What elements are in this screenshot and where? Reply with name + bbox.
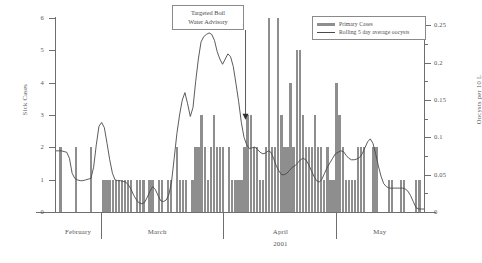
y-axis-right-title: Oocysts per 10 L	[475, 65, 482, 135]
oocyst-rolling-average-line	[56, 18, 424, 212]
month-label: February	[48, 228, 108, 235]
y-axis-left-tick	[49, 115, 56, 116]
y-axis-right-minor-tick	[424, 156, 428, 157]
y-axis-right-tick	[424, 175, 431, 176]
month-separator	[101, 213, 102, 239]
annotation-targeted-boil-water-advisory: Targeted Boil Water Advisory	[172, 5, 244, 30]
y-axis-left-tick	[49, 180, 56, 181]
y-axis-left-tick-label: 2	[28, 143, 44, 150]
legend: Primary Cases Rolling 5 day average oocy…	[312, 16, 426, 40]
month-separator	[223, 213, 224, 239]
chart-container: Sick Cases Oocysts per 10 L 0123456 00.0…	[0, 0, 482, 263]
x-axis-line	[36, 212, 436, 213]
month-label: April	[250, 228, 310, 235]
y-axis-left-tick-label: 1	[28, 176, 44, 183]
y-axis-left-title: Sick Cases	[21, 70, 28, 130]
legend-label-rolling-average: Rolling 5 day average oocysts	[339, 29, 409, 35]
legend-swatch-line-icon	[317, 32, 335, 33]
y-axis-right-tick	[424, 212, 431, 213]
x-axis-year-label: 2001	[250, 240, 310, 247]
annotation-line-1: Targeted Boil	[175, 9, 241, 18]
y-axis-right-tick-label: 0.05	[434, 171, 456, 178]
y-axis-left-tick-label: 0	[28, 208, 44, 215]
y-axis-right-minor-tick	[424, 119, 428, 120]
y-axis-right-minor-tick	[424, 193, 428, 194]
y-axis-left-tick-label: 5	[28, 46, 44, 53]
legend-item-rolling-average: Rolling 5 day average oocysts	[317, 28, 421, 36]
annotation-line-2: Water Advisory	[175, 18, 241, 27]
legend-label-primary-cases: Primary Cases	[339, 21, 373, 27]
y-axis-left-tick	[49, 18, 56, 19]
y-axis-right-minor-tick	[424, 81, 428, 82]
y-axis-right-tick-label: 0.1	[434, 133, 456, 140]
month-label: May	[350, 228, 410, 235]
month-label: March	[127, 228, 187, 235]
y-axis-right-line	[424, 17, 425, 213]
y-axis-right-tick-label: 0.25	[434, 21, 456, 28]
plot-area	[56, 18, 424, 212]
y-axis-left-tick	[49, 50, 56, 51]
legend-swatch-bar-icon	[317, 23, 335, 26]
y-axis-right-tick	[424, 137, 431, 138]
y-axis-right-minor-tick	[424, 44, 428, 45]
y-axis-left-tick	[49, 212, 56, 213]
y-axis-left-tick	[49, 83, 56, 84]
y-axis-right-tick-label: 0.15	[434, 96, 456, 103]
y-axis-right-tick-label: 0.2	[434, 59, 456, 66]
y-axis-left-tick	[49, 147, 56, 148]
y-axis-right-tick	[424, 100, 431, 101]
y-axis-right-tick-label: 0	[434, 208, 456, 215]
legend-item-primary-cases: Primary Cases	[317, 20, 421, 28]
y-axis-left-tick-label: 3	[28, 111, 44, 118]
month-separator	[336, 213, 337, 239]
y-axis-right-tick	[424, 63, 431, 64]
y-axis-left-tick-label: 6	[28, 14, 44, 21]
y-axis-left-tick-label: 4	[28, 79, 44, 86]
